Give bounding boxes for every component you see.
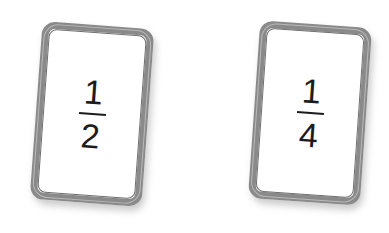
fraction-numerator: 1 xyxy=(83,73,105,110)
fraction-card-one-quarter[interactable]: 1 4 xyxy=(248,20,372,205)
fraction-bar-icon xyxy=(296,111,323,115)
fraction-one-half: 1 2 xyxy=(76,73,109,155)
fraction-cards-scene: 1 2 1 4 xyxy=(0,0,389,233)
fraction-card-one-half[interactable]: 1 2 xyxy=(30,21,155,207)
fraction-numerator: 1 xyxy=(301,72,322,109)
fraction-denominator: 4 xyxy=(298,116,319,153)
fraction-denominator: 2 xyxy=(80,117,102,154)
fraction-one-quarter: 1 4 xyxy=(294,72,327,154)
